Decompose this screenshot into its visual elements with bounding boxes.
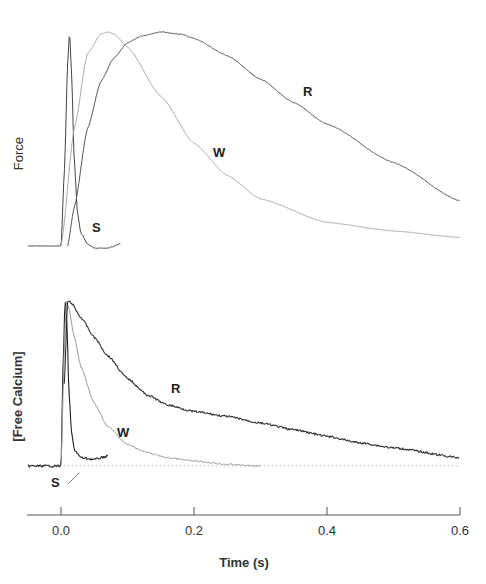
calcium-trace-s <box>28 303 108 468</box>
force-panel <box>28 32 460 249</box>
force-label-w: W <box>213 145 225 160</box>
x-tick-0: 0.0 <box>52 523 70 538</box>
force-trace-w <box>61 32 460 246</box>
force-axis-label: Force <box>11 132 26 176</box>
x-tick-3: 0.6 <box>451 523 469 538</box>
force-label-s: S <box>92 220 101 235</box>
calcium-trace-w <box>61 301 261 466</box>
calcium-label-r: R <box>171 381 180 396</box>
force-label-r: R <box>303 84 312 99</box>
calcium-axis-label: [Free Calcium] <box>10 342 25 452</box>
force-trace-s <box>28 37 121 249</box>
x-axis-title: Time (s) <box>219 555 269 570</box>
calcium-s-leader-line <box>68 473 79 484</box>
x-tick-2: 0.4 <box>318 523 336 538</box>
force-trace-r <box>68 32 460 246</box>
calcium-label-w: W <box>117 425 129 440</box>
chart-canvas <box>0 0 486 584</box>
calcium-label-s: S <box>51 475 60 490</box>
x-axis <box>27 507 460 515</box>
calcium-panel <box>28 301 460 484</box>
x-tick-1: 0.2 <box>185 523 203 538</box>
